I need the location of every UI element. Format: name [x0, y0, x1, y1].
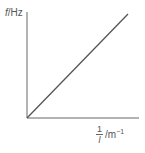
x-axis-unit: /m−1 — [105, 128, 124, 140]
y-axis-label: f/Hz — [5, 7, 23, 18]
x-axis-label: 1 l /m−1 — [96, 124, 124, 145]
data-line — [27, 14, 128, 118]
x-axis-fraction: 1 l — [96, 124, 103, 145]
